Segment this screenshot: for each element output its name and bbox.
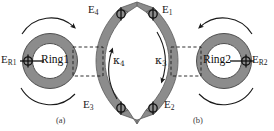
label-er1-base: E <box>1 53 8 65</box>
panel-a: ER1 Ring1 E4 E3 κ4 (a) <box>0 0 137 131</box>
label-e1-sub: 1 <box>169 8 173 17</box>
label-kappa4-sub: 4 <box>120 59 125 68</box>
label-e4-base: E <box>88 3 95 15</box>
label-e2: E2 <box>164 99 174 110</box>
label-kappa4-base: κ <box>113 54 120 67</box>
label-er2-base: E <box>252 53 259 65</box>
label-er2: ER2 <box>252 54 268 65</box>
panel-b: E1 κ3 E2 Ring2 ER2 (b) <box>137 0 274 131</box>
label-er2-sub: R2 <box>259 58 268 67</box>
label-e3-base: E <box>83 98 90 110</box>
label-kappa3: κ3 <box>155 55 167 66</box>
label-er1: ER1 <box>1 54 17 65</box>
label-e1-base: E <box>162 3 169 15</box>
label-kappa4: κ4 <box>113 55 125 66</box>
label-e2-base: E <box>164 98 171 110</box>
label-kappa3-base: κ <box>155 54 162 67</box>
ring1-label: Ring1 <box>41 54 69 66</box>
label-kappa3-sub: 3 <box>162 59 167 68</box>
figure-container: ER1 Ring1 E4 E3 κ4 (a) <box>0 0 274 131</box>
label-e2-sub: 2 <box>171 103 175 112</box>
label-e3-sub: 3 <box>90 103 94 112</box>
label-er1-sub: R1 <box>8 58 17 67</box>
caption-b: (b) <box>193 115 203 125</box>
label-e1: E1 <box>162 4 172 15</box>
label-e3: E3 <box>83 99 93 110</box>
label-e4: E4 <box>88 4 98 15</box>
caption-a: (a) <box>56 115 65 125</box>
label-e4-sub: 4 <box>95 8 99 17</box>
ring2-label: Ring2 <box>203 54 231 66</box>
